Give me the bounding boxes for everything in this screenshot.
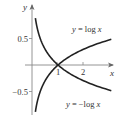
x-axis-label: x [109,68,114,78]
log-chart: 1 2 0.5 −0.5 x y y = log x y = −log x [0,0,122,122]
x-tick-label-2: 2 [81,67,85,77]
y-tick-label-neg: −0.5 [13,87,28,97]
y-axis-label: y [22,2,27,12]
series-label-neg-log: y = −log x [65,99,101,109]
x-tick-label-1: 1 [56,67,60,77]
y-tick-label-pos: 0.5 [17,34,28,44]
series-label-log: y = log x [71,24,102,34]
